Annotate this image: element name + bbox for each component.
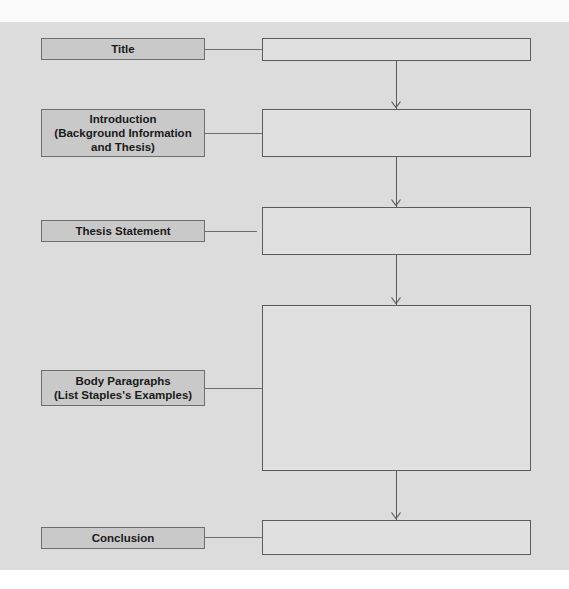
arrow-down-icon: [391, 512, 401, 519]
page-margin: [0, 570, 569, 589]
answer-box-introduction[interactable]: [262, 109, 531, 157]
connector-body: [205, 388, 262, 389]
arrow-down-icon: [391, 297, 401, 304]
connector-thesis: [205, 231, 257, 232]
answer-box-body[interactable]: [262, 305, 531, 471]
label-body-paragraphs: Body Paragraphs (List Staples's Examples…: [41, 370, 205, 406]
diagram-panel: [0, 22, 569, 570]
answer-box-title[interactable]: [262, 38, 531, 61]
connector-conclusion: [205, 537, 262, 538]
arrow-down-icon: [391, 101, 401, 108]
answer-box-thesis[interactable]: [262, 207, 531, 255]
label-title: Title: [41, 38, 205, 60]
arrow-down-icon: [391, 199, 401, 206]
connector-introduction: [205, 133, 262, 134]
answer-box-conclusion[interactable]: [262, 520, 531, 555]
connector-title: [205, 49, 262, 50]
label-thesis-statement: Thesis Statement: [41, 220, 205, 242]
label-introduction: Introduction (Background Information and…: [41, 109, 205, 157]
label-conclusion: Conclusion: [41, 527, 205, 549]
